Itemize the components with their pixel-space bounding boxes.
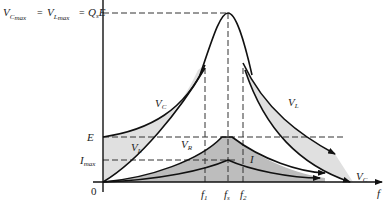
- label-vc-right: VC: [356, 170, 368, 184]
- label-vr: VR: [181, 138, 193, 152]
- y-label-imax: Imax: [79, 154, 96, 168]
- formula-eq2: =: [79, 7, 85, 18]
- formula-eq1: =: [37, 7, 43, 18]
- formula-vc: VCmax: [3, 6, 27, 22]
- x-tick-f1: f1: [201, 188, 208, 202]
- formula-vl: VLmax: [47, 6, 70, 22]
- label-vl-right: VL: [288, 96, 299, 110]
- formula-qs: QsE: [88, 6, 106, 20]
- x-tick-fs: fs: [224, 188, 230, 202]
- y-label-origin: 0: [91, 185, 97, 197]
- x-axis-label-f: f: [377, 187, 382, 199]
- resonance-diagram: VCmax = VLmax = QsE E Imax 0 f1 fs f2 f …: [0, 0, 391, 213]
- y-label-e: E: [86, 131, 94, 143]
- x-tick-f2: f2: [240, 188, 247, 202]
- label-vc-left: VC: [155, 97, 167, 111]
